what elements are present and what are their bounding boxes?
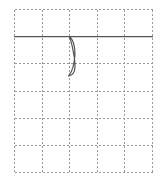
plot-background [0, 0, 162, 184]
waveform-chart [0, 0, 162, 184]
plot-svg [0, 0, 162, 184]
